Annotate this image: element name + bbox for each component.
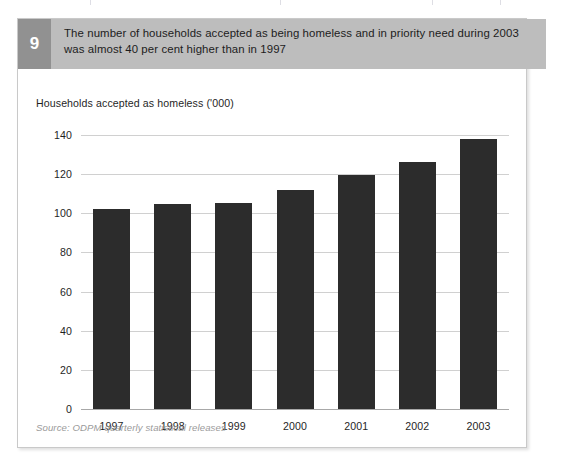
gridline [81, 135, 509, 136]
x-axis-tick-label: 2002 [405, 420, 429, 432]
figure-number-badge: 9 [18, 19, 51, 69]
y-axis-tick-label: 40 [60, 325, 72, 337]
chart-body: Households accepted as homeless ('000) 0… [18, 69, 526, 447]
figure-caption: The number of households accepted as bei… [51, 19, 546, 69]
plot-area: 0204060801001201401997199819992000200120… [81, 135, 509, 409]
bar-2003 [460, 139, 497, 409]
gridline [81, 174, 509, 175]
y-axis-tick-label: 120 [54, 168, 72, 180]
bar-1997 [93, 209, 130, 409]
bar-1999 [215, 203, 252, 409]
bar-2000 [277, 190, 314, 409]
source-note: Source: ODPM quarterly statistical relea… [36, 422, 226, 433]
x-axis-tick-label: 2003 [466, 420, 490, 432]
y-axis-tick-label: 20 [60, 364, 72, 376]
y-axis-tick-label: 100 [54, 207, 72, 219]
y-axis-tick-label: 140 [54, 129, 72, 141]
x-axis-line [81, 409, 509, 410]
bar-2002 [399, 162, 436, 409]
figure-header: 9 The number of households accepted as b… [18, 19, 546, 69]
x-axis-tick-label: 2001 [344, 420, 368, 432]
y-axis-tick-label: 0 [66, 403, 72, 415]
bar-1998 [154, 204, 191, 410]
figure-card: 9 The number of households accepted as b… [17, 18, 527, 448]
bar-2001 [338, 175, 375, 409]
y-axis-tick-label: 80 [60, 246, 72, 258]
x-axis-tick-label: 2000 [283, 420, 307, 432]
page-ink-artifacts [0, 0, 564, 9]
y-axis-title: Households accepted as homeless ('000) [36, 97, 234, 109]
y-axis-tick-label: 60 [60, 286, 72, 298]
